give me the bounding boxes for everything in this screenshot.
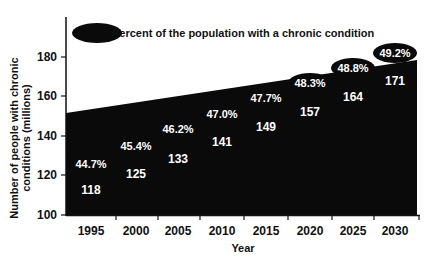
x-tick-label: 2020 [297,224,324,238]
percent-badge: 48.3% [288,73,332,93]
value-label: 133 [168,152,188,166]
percent-badge: 45.4% [114,136,158,156]
x-tick-label: 2025 [340,224,367,238]
chart: 100 120 140 160 180 1995 2000 2005 2010 … [0,0,428,261]
x-tick-label: 2005 [165,224,192,238]
svg-text:conditions (millions): conditions (millions) [20,84,32,192]
x-axis-title: Year [231,242,255,254]
x-tick-label: 2015 [253,224,280,238]
percent-badge: 44.7% [69,154,113,174]
svg-text:49.2%: 49.2% [379,47,410,59]
svg-text:48.8%: 48.8% [337,62,368,74]
percent-badge: 49.2% [373,43,417,63]
value-label: 125 [126,167,146,181]
value-label: 149 [256,120,276,134]
y-tick-label: 140 [37,129,57,143]
svg-text:Number of people with chronic: Number of people with chronic [8,57,20,218]
x-tick-label: 2000 [123,224,150,238]
y-tick-label: 120 [37,168,57,182]
x-tick-label: 1995 [78,224,105,238]
value-label: 171 [385,74,405,88]
svg-text:47.7%: 47.7% [250,92,281,104]
y-tick-label: 180 [37,50,57,64]
value-label: 164 [343,90,363,104]
svg-text:44.7%: 44.7% [75,158,106,170]
value-label: 141 [212,135,232,149]
value-label: 157 [300,105,320,119]
y-tick-label: 160 [37,89,57,103]
percent-badge: 46.2% [156,119,200,139]
x-tick-labels: 1995 2000 2005 2010 2015 2020 2025 2030 [78,224,409,238]
area-fill [66,60,417,215]
percent-badge: 47.7% [244,88,288,108]
percent-badge: 48.8% [331,58,375,78]
svg-text:45.4%: 45.4% [120,140,151,152]
svg-text:47.0%: 47.0% [206,108,237,120]
y-ticks: 100 120 140 160 180 [37,50,66,222]
y-axis-title: Number of people with chronic conditions… [8,57,32,218]
svg-text:48.3%: 48.3% [294,77,325,89]
x-tick-label: 2010 [209,224,236,238]
legend: Percent of the population with a chronic… [72,23,374,43]
legend-label: Percent of the population with a chronic… [112,27,374,39]
percent-badge: 47.0% [200,104,244,124]
value-label: 118 [81,183,101,197]
svg-text:46.2%: 46.2% [162,123,193,135]
y-tick-label: 100 [37,208,57,222]
x-tick-label: 2030 [382,224,409,238]
